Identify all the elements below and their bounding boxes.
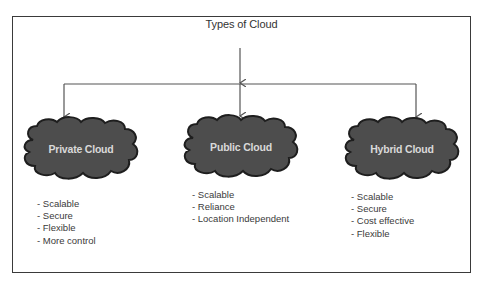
public-cloud-features: - Scalable - Reliance - Location Indepen…: [192, 189, 289, 226]
cloud-types-diagram: Types of Cloud Private Cloud Public Clou…: [0, 0, 483, 288]
hybrid-cloud-label: Hybrid Cloud: [340, 114, 464, 184]
private-cloud-label: Private Cloud: [19, 114, 143, 184]
private-cloud-node: Private Cloud: [19, 114, 143, 184]
feature-item: - Cost effective: [351, 215, 414, 227]
private-cloud-features: - Scalable - Secure - Flexible - More co…: [37, 198, 96, 247]
public-cloud-label: Public Cloud: [179, 112, 303, 182]
hybrid-cloud-features: - Scalable - Secure - Cost effective - F…: [351, 191, 414, 240]
feature-item: - Secure: [37, 210, 96, 222]
feature-item: - Location Independent: [192, 213, 289, 225]
feature-item: - Secure: [351, 203, 414, 215]
feature-item: - More control: [37, 235, 96, 247]
feature-item: - Flexible: [37, 222, 96, 234]
hybrid-cloud-node: Hybrid Cloud: [340, 114, 464, 184]
feature-item: - Scalable: [37, 198, 96, 210]
feature-item: - Reliance: [192, 201, 289, 213]
feature-item: - Scalable: [351, 191, 414, 203]
public-cloud-node: Public Cloud: [179, 112, 303, 182]
feature-item: - Flexible: [351, 228, 414, 240]
feature-item: - Scalable: [192, 189, 289, 201]
